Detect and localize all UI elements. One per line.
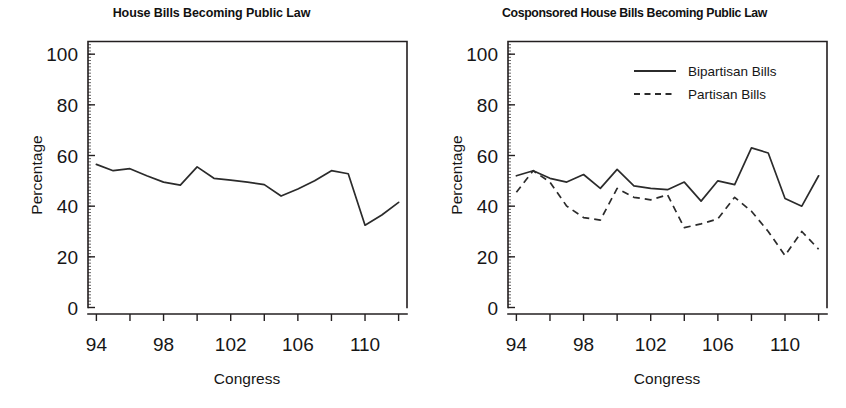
x-tick-label: 110 xyxy=(350,334,380,355)
y-tick-label: 40 xyxy=(57,196,78,217)
y-tick-label: 20 xyxy=(57,247,78,268)
y-tick-labels-right: 020406080100 xyxy=(466,44,498,318)
series-line-partisan-bills xyxy=(516,171,818,256)
x-tick-label: 98 xyxy=(153,334,174,355)
plot-right: 020406080100 9498102106110 Bipartisan Bi… xyxy=(423,0,846,408)
x-tick-labels-left: 9498102106110 xyxy=(86,334,380,355)
y-tick-label: 100 xyxy=(466,44,498,65)
x-tick-label: 102 xyxy=(635,334,667,355)
x-tick-label: 106 xyxy=(702,334,734,355)
x-tick-label: 110 xyxy=(770,334,800,355)
y-tick-label: 20 xyxy=(477,247,498,268)
plot-left: 020406080100 9498102106110 Percentage Co… xyxy=(0,0,423,408)
axes-right xyxy=(508,42,827,315)
y-axis-title-right: Percentage xyxy=(448,135,465,214)
y-tick-label: 40 xyxy=(477,196,498,217)
plot-frame-left xyxy=(88,42,407,308)
y-tick-label: 0 xyxy=(487,298,498,319)
x-tick-label: 98 xyxy=(573,334,594,355)
y-tick-label: 60 xyxy=(477,146,498,167)
series-group-right xyxy=(516,148,818,256)
legend-right: Bipartisan BillsPartisan Bills xyxy=(634,64,777,102)
y-tick-label: 0 xyxy=(67,298,78,319)
x-ticks-right xyxy=(516,314,818,321)
series-line-all-house-bills xyxy=(96,164,398,225)
x-tick-label: 94 xyxy=(86,334,108,355)
x-axis-title-left: Congress xyxy=(214,370,281,387)
legend-label: Bipartisan Bills xyxy=(688,64,777,79)
y-axis-title-left: Percentage xyxy=(28,135,45,214)
y-tick-label: 60 xyxy=(57,146,78,167)
chart-panel-right: Cosponsored House Bills Becoming Public … xyxy=(423,0,846,408)
y-tick-label: 80 xyxy=(477,95,498,116)
legend-label: Partisan Bills xyxy=(688,87,766,102)
figure-container: House Bills Becoming Public Law 02040608… xyxy=(0,0,846,408)
y-tick-labels-left: 020406080100 xyxy=(46,44,78,318)
series-group-left xyxy=(96,164,398,225)
y-tick-label: 100 xyxy=(46,44,78,65)
y-tick-label: 80 xyxy=(57,95,78,116)
x-tick-label: 106 xyxy=(282,334,314,355)
x-tick-label: 94 xyxy=(506,334,528,355)
x-axis-title-right: Congress xyxy=(634,370,701,387)
x-tick-label: 102 xyxy=(215,334,247,355)
plot-frame-right xyxy=(508,42,827,308)
chart-panel-left: House Bills Becoming Public Law 02040608… xyxy=(0,0,423,408)
x-tick-labels-right: 9498102106110 xyxy=(506,334,800,355)
series-line-bipartisan-bills xyxy=(516,148,818,206)
axes-left xyxy=(88,42,407,315)
x-ticks-left xyxy=(96,314,398,321)
